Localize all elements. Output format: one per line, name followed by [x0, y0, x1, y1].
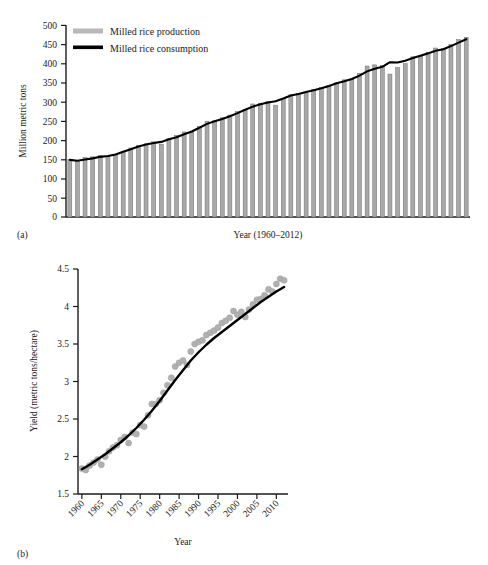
bar	[274, 105, 278, 217]
panel-b-xtick-label-2005: 2005	[241, 498, 262, 519]
bar	[464, 37, 468, 217]
panel-a: 500 450 400 350 300 250 200 150 100 50 0…	[17, 21, 470, 241]
bar	[365, 66, 369, 217]
bar	[312, 89, 316, 217]
bar	[236, 112, 240, 217]
bar	[121, 151, 125, 217]
legend-swatch-consumption	[73, 46, 103, 50]
scatter-point	[281, 277, 287, 283]
bar	[136, 146, 140, 217]
scatter-point	[125, 440, 131, 446]
bar	[197, 127, 201, 217]
bar	[342, 80, 346, 217]
bar	[449, 45, 453, 217]
bar	[144, 144, 148, 217]
bar	[441, 48, 445, 217]
panel-a-bars	[68, 37, 468, 217]
scatter-point	[133, 431, 139, 437]
panel-b-xtick-label-1995: 1995	[202, 498, 223, 519]
bar	[75, 160, 79, 217]
bar	[152, 142, 156, 217]
bar	[251, 104, 255, 217]
panel-b-y-ticklabels: 4.5 4 3.5 3 2.5 2 1.5	[57, 264, 69, 499]
panel-b-x-ticklabels: 1960196519701975198019851990199520002005…	[66, 498, 281, 519]
panel-b-ytick-2-5: 2.5	[57, 414, 69, 424]
panel-b-ytick-3-5: 3.5	[57, 339, 69, 349]
bar	[319, 87, 323, 217]
bar	[106, 156, 110, 217]
panel-b-xtick-label-1975: 1975	[124, 498, 145, 519]
panel-b-xtick-label-1960: 1960	[66, 498, 87, 519]
bar	[396, 68, 400, 217]
bar	[228, 115, 232, 217]
bar	[434, 48, 438, 217]
panel-a-ytick-150: 150	[43, 155, 58, 165]
scatter-point	[168, 375, 174, 381]
bar	[83, 158, 87, 217]
panel-a-y-ticklabels: 500 450 400 350 300 250 200 150 100 50 0	[43, 21, 58, 223]
bar	[304, 93, 308, 217]
scatter-point	[141, 423, 147, 429]
scatter-point	[188, 348, 194, 354]
bar	[68, 160, 72, 217]
panel-a-ytick-350: 350	[43, 78, 58, 88]
panel-a-y-axis-title: Million metric tons	[18, 84, 28, 158]
bar	[289, 95, 293, 217]
legend-label-consumption: Milled rice consumption	[110, 43, 208, 54]
bar	[457, 40, 461, 217]
panel-a-x-axis-title: Year (1960–2012)	[234, 230, 303, 241]
bar	[411, 57, 415, 217]
bar	[350, 79, 354, 217]
scatter-point	[227, 315, 233, 321]
legend-swatch-production	[73, 29, 103, 34]
panel-a-ytick-250: 250	[43, 117, 58, 127]
bar	[327, 86, 331, 217]
bar	[373, 65, 377, 217]
bar	[335, 83, 339, 217]
panel-b-y-axis-title: Yield (metric tons/hectare)	[29, 330, 40, 432]
panel-b: 4.5 4 3.5 3 2.5 2 1.5 Yield (metric tons…	[17, 264, 288, 560]
panel-b-ytick-4-5: 4.5	[57, 264, 69, 274]
bar	[380, 66, 384, 217]
bar	[426, 52, 430, 217]
bar	[190, 132, 194, 217]
panel-b-xtick-label-2010: 2010	[260, 498, 281, 519]
bar	[388, 74, 392, 217]
panel-b-xtick-label-1985: 1985	[163, 498, 184, 519]
panel-b-xtick-label-2000: 2000	[221, 498, 242, 519]
panel-a-ytick-200: 200	[43, 136, 58, 146]
bar	[182, 132, 186, 217]
bar	[167, 138, 171, 217]
panel-a-y-ticks	[61, 25, 66, 217]
panel-b-trend-line	[82, 287, 284, 469]
bar	[403, 64, 407, 217]
panel-b-label: (b)	[17, 549, 28, 560]
bar	[258, 103, 262, 217]
panel-b-ytick-2-0: 2	[64, 452, 69, 462]
bar	[205, 121, 209, 217]
bar	[213, 121, 217, 217]
bar	[281, 99, 285, 217]
bar	[243, 109, 247, 217]
bar	[220, 118, 224, 217]
panel-b-x-ticks	[82, 494, 276, 499]
panel-a-label: (a)	[17, 230, 28, 241]
panel-b-xtick-label-1970: 1970	[105, 498, 126, 519]
panel-a-ytick-400: 400	[43, 59, 58, 69]
bar	[266, 102, 270, 217]
bar	[159, 144, 163, 217]
figure-svg: 500 450 400 350 300 250 200 150 100 50 0…	[0, 0, 488, 565]
panel-a-ytick-450: 450	[43, 40, 58, 50]
panel-b-ytick-3-0: 3	[64, 377, 69, 387]
panel-b-ytick-4-0: 4	[64, 302, 69, 312]
bar	[98, 155, 102, 217]
figure-container: 500 450 400 350 300 250 200 150 100 50 0…	[0, 0, 488, 565]
panel-b-x-axis-title: Year	[174, 537, 192, 547]
panel-b-xtick-label-1990: 1990	[182, 498, 203, 519]
panel-a-ytick-500: 500	[43, 21, 58, 31]
bar	[297, 93, 301, 217]
bar	[114, 155, 118, 217]
panel-b-xtick-label-1980: 1980	[144, 498, 165, 519]
panel-a-ytick-300: 300	[43, 98, 58, 108]
bar	[129, 148, 133, 217]
